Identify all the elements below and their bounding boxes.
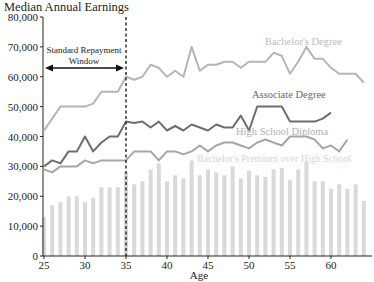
premium-bar xyxy=(296,169,300,256)
premium-bar xyxy=(354,184,358,256)
premium-bar xyxy=(255,175,259,256)
y-tick-label: 50,000 xyxy=(8,101,39,113)
x-axis-label: Age xyxy=(190,269,208,281)
premium-bars xyxy=(42,160,366,256)
premium-bar xyxy=(231,166,235,256)
x-tick-label: 30 xyxy=(80,259,92,271)
premium-bar xyxy=(75,196,79,256)
premium-bar xyxy=(91,198,95,256)
premium-bar xyxy=(140,181,144,256)
premium-bar xyxy=(321,181,325,256)
y-tick-label: 20,000 xyxy=(8,190,39,202)
repayment-window-label-line2: Window xyxy=(69,56,100,66)
premium-bar xyxy=(83,202,87,256)
repayment-window-label-line1: Standard Repayment xyxy=(46,45,122,55)
premium-bar xyxy=(329,189,333,256)
x-tick-label: 50 xyxy=(244,259,256,271)
premium-bar xyxy=(173,175,177,256)
premium-bar xyxy=(116,187,120,256)
premium-bar xyxy=(214,172,218,256)
premium-bar xyxy=(206,169,210,256)
y-tick-label: 60,000 xyxy=(8,71,39,83)
premium-bar xyxy=(157,163,161,256)
premium-bar xyxy=(239,178,243,256)
arrow-left-icon xyxy=(45,65,53,72)
earnings-chart: Median Annual Earnings 010,00020,00030,0… xyxy=(0,0,374,282)
premium-bar xyxy=(304,162,308,256)
label-bachelors: Bachelor's Degree xyxy=(265,36,342,47)
premium-bar xyxy=(165,181,169,256)
premium-bar xyxy=(263,177,267,256)
premium-bar xyxy=(58,202,62,256)
x-tick-label: 40 xyxy=(162,259,174,271)
y-tick-label: 40,000 xyxy=(8,131,39,143)
y-axis: 010,00020,00030,00040,00050,00060,00070,… xyxy=(8,11,43,262)
label-associate: Associate Degree xyxy=(252,89,326,100)
premium-bar xyxy=(313,181,317,256)
premium-bar xyxy=(99,187,103,256)
premium-bar xyxy=(362,201,366,256)
premium-bar xyxy=(247,171,251,256)
x-tick-label: 35 xyxy=(121,259,133,271)
label-premium: Bachelor's Premium over High School xyxy=(197,153,351,164)
premium-bar xyxy=(190,160,194,256)
premium-bar xyxy=(337,184,341,256)
premium-bar xyxy=(288,180,292,256)
premium-bar xyxy=(280,168,284,256)
premium-bar xyxy=(108,187,112,256)
x-tick-label: 60 xyxy=(326,259,338,271)
x-tick-label: 55 xyxy=(285,259,297,271)
premium-bar xyxy=(50,205,54,256)
repayment-window-annotation: Standard Repayment Window xyxy=(45,45,124,72)
y-tick-label: 70,000 xyxy=(8,41,39,53)
premium-bar xyxy=(198,175,202,256)
premium-bar xyxy=(181,178,185,256)
y-tick-label: 10,000 xyxy=(8,220,39,232)
premium-bar xyxy=(149,169,153,256)
premium-bar xyxy=(345,189,349,256)
y-tick-label: 30,000 xyxy=(8,160,39,172)
premium-bar xyxy=(272,169,276,256)
arrow-right-icon xyxy=(116,65,124,72)
premium-bar xyxy=(222,175,226,256)
label-highschool: High School Diploma xyxy=(236,126,329,137)
premium-bar xyxy=(67,196,71,256)
x-tick-label: 25 xyxy=(39,259,51,271)
y-tick-label: 80,000 xyxy=(8,11,39,23)
premium-bar xyxy=(132,184,136,256)
